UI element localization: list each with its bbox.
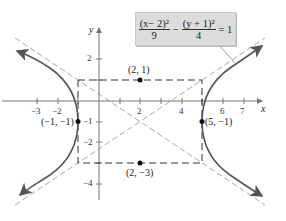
x-tick-label: 6 bbox=[220, 106, 225, 116]
point-label: (2, 1) bbox=[128, 64, 150, 75]
denominator: 9 bbox=[152, 30, 157, 41]
x-tick-label: 7 bbox=[240, 106, 245, 116]
y-tick-label: 2 bbox=[87, 53, 92, 63]
x-axis-label: x bbox=[261, 103, 265, 114]
y-axis-label: y bbox=[89, 24, 93, 35]
numerator: (y + 1)² bbox=[182, 18, 216, 30]
hyperbola-left-branch-lower bbox=[20, 122, 78, 196]
point-5-neg1 bbox=[200, 119, 205, 124]
hyperbola-right-branch-lower bbox=[202, 122, 262, 197]
point-2-neg3 bbox=[138, 161, 143, 166]
y-tick-label: −4 bbox=[83, 178, 93, 188]
denominator: 4 bbox=[196, 30, 201, 41]
numerator: (x− 2)² bbox=[139, 18, 170, 30]
x-tick-label: 4 bbox=[179, 106, 184, 116]
point-neg1-neg1 bbox=[76, 119, 81, 124]
point-2-1 bbox=[138, 78, 143, 83]
equals-one: = 1 bbox=[219, 24, 233, 35]
fraction-x-term: (x− 2)² 9 bbox=[139, 18, 170, 41]
point-label: (5, −1) bbox=[205, 116, 232, 127]
callout-leader bbox=[218, 44, 236, 64]
point-label: (2, −3) bbox=[126, 167, 153, 178]
y-tick-label: −2 bbox=[83, 137, 93, 147]
point-label: (−1, −1) bbox=[41, 116, 74, 127]
hyperbola-right-branch bbox=[202, 46, 262, 122]
x-tick-label: −3 bbox=[31, 106, 41, 116]
x-tick-label: 2 bbox=[137, 106, 142, 116]
fraction-y-term: (y + 1)² 4 bbox=[182, 18, 216, 41]
hyperbola-left-branch bbox=[17, 51, 78, 122]
x-tick-label: −2 bbox=[52, 106, 62, 116]
y-tick-label: −1 bbox=[83, 116, 93, 126]
hyperbola-equation: (x− 2)² 9 − (y + 1)² 4 = 1 bbox=[136, 13, 235, 45]
equation-callout: (x− 2)² 9 − (y + 1)² 4 = 1 bbox=[135, 12, 236, 46]
minus-sign: − bbox=[173, 24, 179, 35]
